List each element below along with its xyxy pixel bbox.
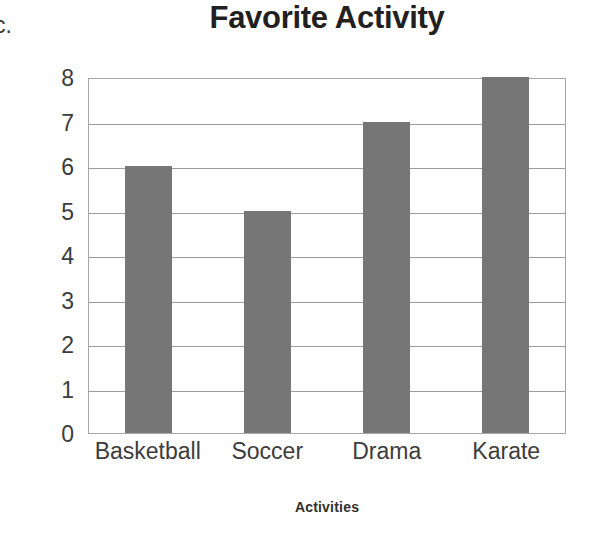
- bar-basketball: [125, 166, 172, 433]
- x-axis-tick-label: Drama: [327, 440, 447, 463]
- y-axis-tick-labels: 876543210: [40, 78, 80, 434]
- y-axis-tick-label: 4: [34, 245, 74, 268]
- bar-slot: [446, 79, 565, 433]
- y-axis-tick-label: 5: [34, 200, 74, 223]
- bar-soccer: [244, 211, 291, 434]
- bars-layer: [89, 79, 565, 433]
- chart-title: Favorite Activity: [88, 0, 566, 36]
- x-axis-tick-labels: BasketballSoccerDramaKarate: [88, 440, 566, 463]
- x-axis-tick-label: Soccer: [208, 440, 328, 463]
- y-axis-tick-label: 1: [34, 378, 74, 401]
- y-axis-tick-label: 6: [34, 156, 74, 179]
- bar-slot: [89, 79, 208, 433]
- y-axis-tick-label: 8: [34, 67, 74, 90]
- y-axis-tick-label: 2: [34, 334, 74, 357]
- bar-karate: [482, 77, 529, 433]
- bar-slot: [327, 79, 446, 433]
- y-axis-tick-label: 0: [34, 423, 74, 446]
- bar-drama: [363, 122, 410, 434]
- plot-area: [88, 78, 566, 434]
- x-axis-title: Activities: [88, 499, 566, 515]
- problem-number-label: c.: [0, 12, 12, 39]
- bar-slot: [208, 79, 327, 433]
- y-axis-tick-label: 7: [34, 111, 74, 134]
- x-axis-tick-label: Karate: [447, 440, 567, 463]
- x-axis-tick-label: Basketball: [88, 440, 208, 463]
- y-axis-tick-label: 3: [34, 289, 74, 312]
